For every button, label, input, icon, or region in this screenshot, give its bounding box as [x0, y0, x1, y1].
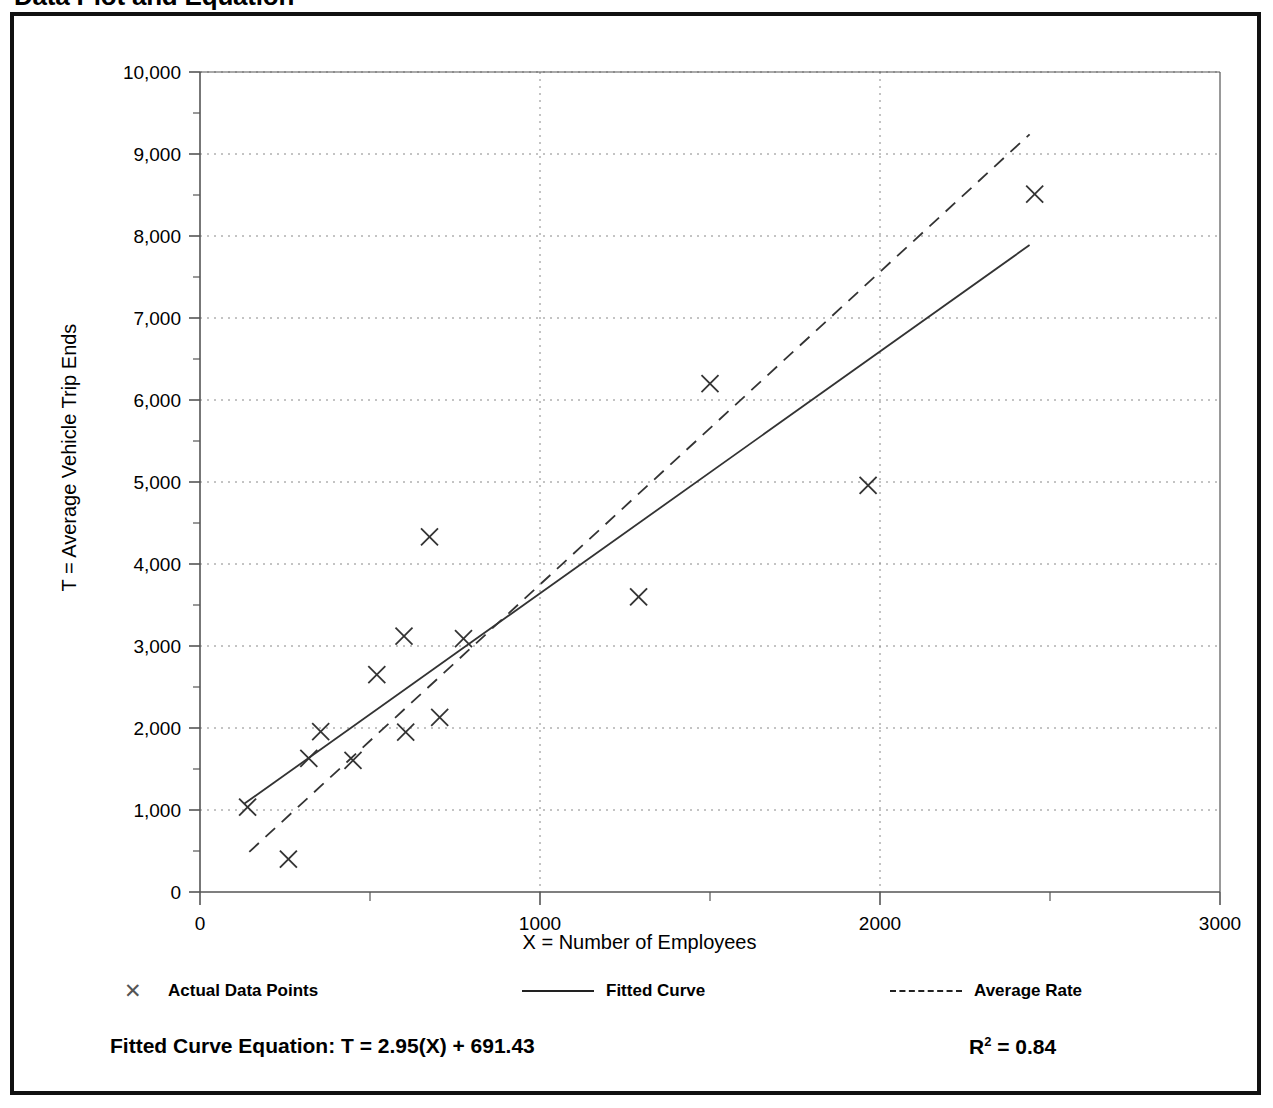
data-point-marker: [421, 528, 438, 545]
data-point-marker: [345, 752, 362, 769]
data-point-marker: [280, 851, 297, 868]
x-axis-title: X = Number of Employees: [14, 931, 1265, 954]
r-squared-prefix: R: [969, 1035, 984, 1058]
data-point-marker: [630, 588, 647, 605]
equation-row: Fitted Curve Equation: T = 2.95(X) + 691…: [14, 1034, 1265, 1074]
page-title: Data Plot and Equation: [14, 0, 294, 12]
r-squared-number: = 0.84: [991, 1035, 1056, 1058]
data-point-marker: [702, 375, 719, 392]
legend-label: Actual Data Points: [168, 981, 318, 1001]
y-tick-label: 6,000: [133, 390, 181, 411]
y-tick-label: 3,000: [133, 636, 181, 657]
tick-labels: 01,0002,0003,0004,0005,0006,0007,0008,00…: [123, 62, 1241, 934]
average-rate-line: [249, 134, 1029, 852]
fitted-curve-equation: Fitted Curve Equation: T = 2.95(X) + 691…: [110, 1034, 535, 1058]
y-axis-title: T = Average Vehicle Trip Ends: [58, 258, 81, 658]
fitted-curve-line: [244, 245, 1029, 804]
y-tick-label: 1,000: [133, 800, 181, 821]
legend-item-average-rate: Average Rate: [890, 978, 1082, 1004]
data-point-marker: [396, 628, 413, 645]
y-tick-label: 10,000: [123, 62, 181, 83]
legend-item-actual-data-points: ✕ Actual Data Points: [110, 978, 318, 1004]
legend-label: Average Rate: [974, 981, 1082, 1001]
data-point-markers: [239, 186, 1043, 868]
y-tick-label: 5,000: [133, 472, 181, 493]
x-marker-icon: ✕: [110, 979, 156, 1003]
data-point-marker: [860, 477, 877, 494]
data-point-marker: [368, 666, 385, 683]
data-point-marker: [312, 723, 329, 740]
figure-frame: 01,0002,0003,0004,0005,0006,0007,0008,00…: [10, 12, 1261, 1095]
legend-item-fitted-curve: Fitted Curve: [522, 978, 705, 1004]
data-point-marker: [300, 750, 317, 767]
y-tick-label: 4,000: [133, 554, 181, 575]
data-point-marker: [397, 724, 414, 741]
legend-label: Fitted Curve: [606, 981, 705, 1001]
y-tick-label: 0: [170, 882, 181, 903]
axes: [189, 72, 1220, 905]
solid-line-icon: [522, 990, 594, 992]
y-tick-label: 2,000: [133, 718, 181, 739]
data-point-marker: [1026, 186, 1043, 203]
y-tick-label: 9,000: [133, 144, 181, 165]
y-tick-label: 8,000: [133, 226, 181, 247]
data-point-marker: [431, 709, 448, 726]
fitted-curve-line-path: [244, 245, 1029, 804]
data-point-marker: [455, 630, 472, 647]
r-squared-value: R2 = 0.84: [969, 1034, 1056, 1059]
chart-legend: ✕ Actual Data Points Fitted Curve Averag…: [14, 978, 1265, 1018]
y-tick-label: 7,000: [133, 308, 181, 329]
dashed-line-icon: [890, 990, 962, 992]
gridlines: [200, 72, 1220, 892]
average-rate-line-path: [249, 134, 1029, 852]
